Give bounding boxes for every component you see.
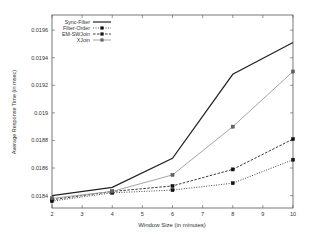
series-line-sync-filter xyxy=(52,43,293,196)
line-chart: 0.01840.01860.01880.0190.01920.01940.019… xyxy=(0,0,311,236)
legend: Sync-FilterFilter-OrderEM-SWJoinXJoin xyxy=(62,19,111,43)
data-point-marker xyxy=(291,70,294,73)
data-point-marker xyxy=(171,188,174,191)
chart-canvas: 0.01840.01860.01880.0190.01920.01940.019… xyxy=(0,0,311,236)
x-tick-label: 3 xyxy=(81,211,84,217)
y-tick-label: 0.0188 xyxy=(31,137,48,143)
data-point-marker xyxy=(171,173,174,176)
y-tick-label: 0.019 xyxy=(34,110,48,116)
x-tick-label: 8 xyxy=(231,211,234,217)
series-line-xjoin xyxy=(52,72,293,199)
y-tick-label: 0.0194 xyxy=(31,55,48,61)
x-axis-label: Window Size (in minutes) xyxy=(138,222,206,228)
x-tick-label: 4 xyxy=(111,211,114,217)
y-axis-ticks: 0.01840.01860.01880.0190.01920.01940.019… xyxy=(31,27,293,198)
x-tick-label: 2 xyxy=(50,211,53,217)
legend-marker xyxy=(100,32,103,35)
data-point-marker xyxy=(291,158,294,161)
data-point-marker xyxy=(171,184,174,187)
x-tick-label: 6 xyxy=(171,211,174,217)
y-tick-label: 0.0186 xyxy=(31,165,48,171)
data-point-marker xyxy=(231,182,234,185)
x-tick-label: 5 xyxy=(141,211,144,217)
data-point-marker xyxy=(291,137,294,140)
legend-marker xyxy=(100,26,103,29)
data-point-marker xyxy=(231,168,234,171)
y-tick-label: 0.0196 xyxy=(31,27,48,33)
legend-label: XJoin xyxy=(77,37,90,43)
legend-marker xyxy=(100,38,103,41)
y-axis-label: Average Response Time (in msec) xyxy=(11,70,17,154)
y-tick-label: 0.0184 xyxy=(31,193,48,199)
data-point-marker xyxy=(50,197,53,200)
series-lines xyxy=(50,43,294,203)
plot-frame xyxy=(52,15,293,208)
x-tick-label: 7 xyxy=(201,211,204,217)
y-tick-label: 0.0192 xyxy=(31,82,48,88)
x-tick-label: 10 xyxy=(290,211,296,217)
data-point-marker xyxy=(231,125,234,128)
data-point-marker xyxy=(111,190,114,193)
x-tick-label: 9 xyxy=(261,211,264,217)
